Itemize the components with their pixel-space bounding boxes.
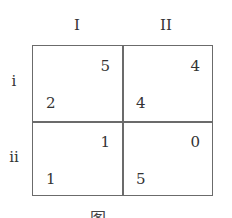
column-player-payoff: 0 — [190, 135, 200, 150]
cell-ii-II: 0 5 — [123, 122, 212, 197]
row-label-ii: ii — [6, 148, 22, 166]
row-label-i: i — [6, 72, 22, 90]
cell-i-II: 4 4 — [123, 46, 212, 121]
cell-ii-I: 1 1 — [33, 122, 122, 197]
cell-i-I: 5 2 — [33, 46, 122, 121]
column-player-payoff: 1 — [100, 135, 110, 150]
row-player-payoff: 4 — [136, 96, 146, 111]
payoff-matrix-grid: 5 2 4 4 1 1 0 5 — [32, 45, 213, 196]
figure-caption: 图 — [90, 210, 130, 218]
column-player-payoff: 4 — [190, 59, 200, 74]
column-label-II: II — [146, 16, 186, 34]
column-player-payoff: 5 — [100, 59, 110, 74]
row-player-payoff: 1 — [46, 172, 56, 187]
row-player-payoff: 5 — [136, 172, 146, 187]
row-player-payoff: 2 — [46, 96, 56, 111]
column-label-I: I — [57, 16, 97, 34]
